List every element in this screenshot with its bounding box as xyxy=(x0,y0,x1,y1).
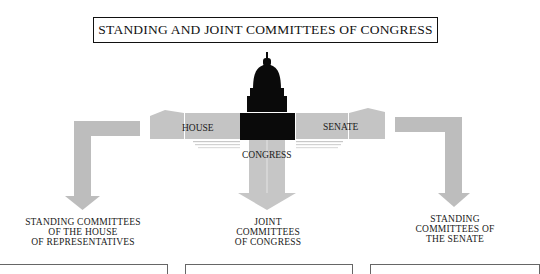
senate-label: SENATE xyxy=(323,122,358,132)
label-line: OF THE HOUSE xyxy=(8,227,158,237)
joint-committees-box xyxy=(185,264,353,274)
label-line: COMMITTEES xyxy=(203,227,333,237)
joint-committees-label: JOINT COMMITTEES OF CONGRESS xyxy=(203,217,333,247)
house-label: HOUSE xyxy=(182,123,214,133)
house-committees-label: STANDING COMMITTEES OF THE HOUSE OF REPR… xyxy=(8,217,158,247)
house-arrow-icon xyxy=(65,121,140,210)
label-line: OF CONGRESS xyxy=(203,237,333,247)
label-line: STANDING xyxy=(390,214,520,224)
label-line: OF REPRESENTATIVES xyxy=(8,237,158,247)
congress-label: CONGRESS xyxy=(242,150,292,160)
house-committees-box xyxy=(0,264,168,274)
senate-arrow-icon xyxy=(395,117,470,207)
label-line: JOINT xyxy=(203,217,333,227)
label-line: THE SENATE xyxy=(390,234,520,244)
capitol-dome-icon xyxy=(240,52,295,140)
label-line: COMMITTEES OF xyxy=(390,224,520,234)
senate-committees-label: STANDING COMMITTEES OF THE SENATE xyxy=(390,214,520,244)
label-line: STANDING COMMITTEES xyxy=(8,217,158,227)
senate-committees-box xyxy=(370,264,540,274)
